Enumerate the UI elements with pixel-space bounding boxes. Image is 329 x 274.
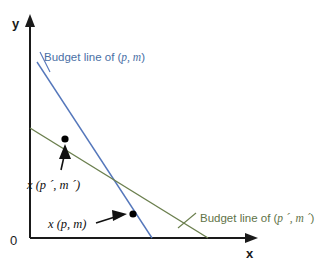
y-axis-arrowhead (25, 14, 35, 27)
green-label-suffix: ) (311, 212, 315, 224)
blue-label-suffix: ) (141, 51, 145, 63)
arrow-to-x-p-m (96, 210, 127, 223)
x-axis (30, 233, 258, 243)
blue-budget-line-label: Budget line of (p, m) (44, 51, 145, 64)
blue-label-symbol: p, m (120, 51, 141, 64)
green-label-prefix: Budget line of ( (200, 212, 278, 224)
arrow-to-x-p-prime-m-prime (59, 144, 71, 170)
x-axis-label: x (246, 246, 254, 261)
green-budget-line-label: Budget line of (p ´, m ´) (200, 212, 315, 225)
arrow-head-right (112, 210, 127, 221)
diagram-canvas: y x 0 Budget line of (p, m) Budget line … (0, 0, 329, 274)
label-x-p-prime-m-prime: x (p ´, m ´) (26, 178, 80, 192)
blue-label-prefix: Budget line of ( (44, 51, 122, 63)
y-axis (25, 14, 35, 238)
marker-x-p-m (129, 210, 136, 217)
origin-label: 0 (10, 233, 17, 248)
budget-line-diagram: y x 0 Budget line of (p, m) Budget line … (0, 0, 329, 274)
marker-x-p-prime-m-prime (61, 135, 68, 142)
y-axis-label: y (12, 16, 20, 31)
green-label-symbol: p ´, m ´ (276, 212, 310, 225)
x-axis-arrowhead (245, 233, 258, 243)
label-x-p-m: x (p, m) (47, 217, 87, 231)
